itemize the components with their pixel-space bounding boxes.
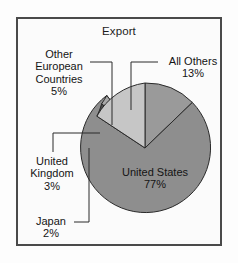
- label-other-european-line2: European: [35, 60, 83, 72]
- label-japan-pct: 2%: [26, 227, 76, 239]
- label-united-kingdom-line1: United: [36, 155, 68, 167]
- label-other-european-pct: 5%: [22, 85, 96, 97]
- label-united-kingdom-pct: 3%: [16, 180, 88, 192]
- label-other-european-countries: Other European Countries 5%: [22, 48, 96, 98]
- label-all-others: All Others 13%: [160, 55, 226, 80]
- label-united-kingdom: United Kingdom 3%: [16, 155, 88, 192]
- label-other-european-line3: Countries: [35, 73, 82, 85]
- label-united-kingdom-line2: Kingdom: [30, 167, 73, 179]
- label-all-others-text: All Others: [169, 55, 217, 67]
- label-united-states-text: United States: [122, 166, 188, 178]
- label-united-states-pct: 77%: [113, 178, 197, 190]
- label-japan: Japan 2%: [26, 215, 76, 240]
- label-other-european-line1: Other: [45, 48, 73, 60]
- label-all-others-pct: 13%: [160, 67, 226, 79]
- label-japan-text: Japan: [36, 215, 66, 227]
- pie-chart-figure: Export Other European Countries 5% All O…: [0, 0, 238, 263]
- label-united-states: United States 77%: [113, 166, 197, 191]
